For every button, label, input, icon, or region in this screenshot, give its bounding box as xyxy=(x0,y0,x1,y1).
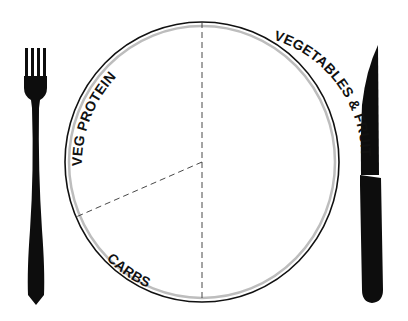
fork-icon xyxy=(24,48,47,305)
plate-diagram: VEG PROTEIN VEGETABLES & FRUIT CARBS xyxy=(0,0,408,321)
knife-icon xyxy=(360,45,383,303)
